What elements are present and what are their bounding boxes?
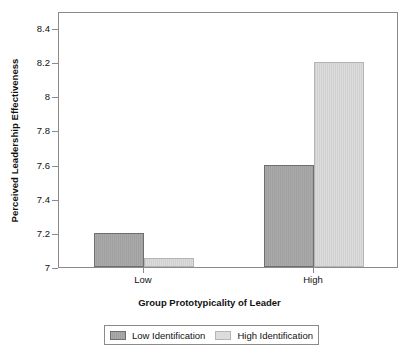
- legend-item[interactable]: Low Identification: [110, 330, 205, 341]
- y-tick-label: 8: [6, 93, 50, 103]
- y-tick-label: 7: [6, 263, 50, 273]
- x-tick-mark: [313, 268, 314, 273]
- bar-chart-figure: Perceived Leadership Effectiveness 77.27…: [0, 0, 419, 353]
- bar-low-low-identification: [94, 233, 144, 267]
- y-tick-label: 7.6: [6, 161, 50, 171]
- chart-legend: Low IdentificationHigh Identification: [104, 325, 319, 345]
- legend-item[interactable]: High Identification: [215, 330, 313, 341]
- y-tick-label: 7.8: [6, 127, 50, 137]
- plot-area: [58, 12, 398, 268]
- y-tick-label: 8.4: [6, 24, 50, 34]
- x-tick-mark: [143, 268, 144, 273]
- y-tick-label: 8.2: [6, 58, 50, 68]
- legend-item-label: High Identification: [237, 330, 313, 341]
- x-axis-title: Group Prototypicality of Leader: [0, 297, 419, 308]
- y-tick-label: 7.4: [6, 195, 50, 205]
- bar-high-high-identification: [314, 62, 364, 267]
- high-id-swatch: [215, 331, 231, 340]
- bar-low-high-identification: [144, 258, 194, 267]
- low-id-swatch: [110, 331, 126, 340]
- y-tick-mark: [52, 268, 58, 269]
- x-category-label: Low: [134, 274, 151, 285]
- x-category-label: High: [303, 274, 323, 285]
- bar-high-low-identification: [264, 165, 314, 267]
- y-tick-label: 7.2: [6, 229, 50, 239]
- legend-item-label: Low Identification: [132, 330, 205, 341]
